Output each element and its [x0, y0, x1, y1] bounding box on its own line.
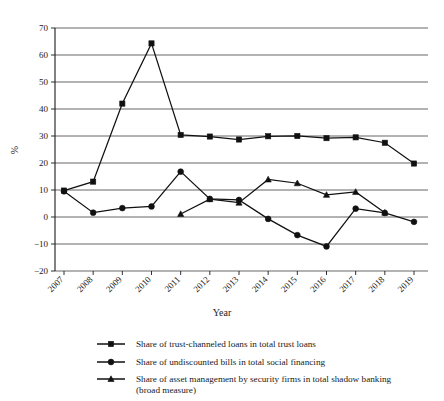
y-tick-label: −20	[34, 266, 49, 276]
data-point-circle	[61, 188, 67, 194]
legend-label-continued: (broad measure)	[136, 385, 196, 395]
legend-group: Share of trust-channeled loans in total …	[97, 339, 392, 395]
y-tick-label: 0	[44, 212, 49, 222]
x-axis-title: Year	[213, 307, 232, 318]
data-point-square	[353, 135, 358, 140]
chart-figure: −20−10010203040506070 200720082009201020…	[0, 0, 444, 401]
legend-item: Share of undiscounted bills in total soc…	[97, 357, 325, 367]
data-point-square	[266, 134, 271, 139]
data-point-square	[120, 101, 125, 106]
x-tick-label: 2008	[75, 274, 95, 294]
series-line	[64, 43, 414, 190]
legend-item: Share of trust-channeled loans in total …	[97, 339, 316, 349]
x-tick-label: 2019	[396, 274, 416, 294]
data-point-circle	[324, 244, 330, 250]
data-point-circle	[411, 219, 417, 225]
y-tick-label: 60	[39, 50, 49, 60]
data-point-circle	[294, 232, 300, 238]
data-point-square	[207, 134, 212, 139]
x-tick-label: 2017	[337, 274, 357, 294]
legend-item: Share of asset management by security fi…	[97, 374, 392, 395]
series-line	[64, 172, 414, 247]
x-tick-label: 2014	[250, 274, 270, 294]
series-square	[61, 41, 416, 193]
x-tick-label: 2009	[104, 274, 124, 294]
data-point-square	[324, 136, 329, 141]
data-point-square	[149, 41, 154, 46]
data-point-circle	[178, 169, 184, 175]
x-tick-label: 2015	[279, 274, 299, 294]
data-point-square	[295, 133, 300, 138]
x-tick-label: 2012	[191, 274, 211, 294]
data-point-triangle	[265, 176, 271, 182]
data-point-circle	[353, 206, 359, 212]
y-axis-title: %	[9, 146, 20, 154]
line-chart-svg: −20−10010203040506070 200720082009201020…	[0, 0, 444, 401]
gridlines-group	[55, 28, 428, 271]
y-tick-label: 70	[39, 23, 49, 33]
y-tick-label: −10	[34, 239, 49, 249]
data-point-square	[382, 140, 387, 145]
data-point-square	[91, 179, 96, 184]
data-point-circle	[119, 205, 125, 211]
y-tick-label: 20	[39, 158, 49, 168]
series-group	[61, 41, 417, 250]
data-point-square	[108, 341, 113, 346]
data-point-square	[236, 137, 241, 142]
y-axis-ticks: −20−10010203040506070	[34, 23, 55, 276]
y-tick-label: 50	[39, 77, 49, 87]
series-circle	[61, 169, 417, 250]
data-point-square	[411, 161, 416, 166]
x-tick-label: 2011	[163, 274, 183, 294]
x-tick-label: 2007	[46, 274, 66, 294]
y-tick-label: 10	[39, 185, 49, 195]
data-point-circle	[108, 359, 114, 365]
x-tick-label: 2010	[133, 274, 153, 294]
data-point-circle	[265, 216, 271, 222]
legend-label: Share of trust-channeled loans in total …	[136, 339, 316, 349]
y-tick-label: 40	[39, 104, 49, 114]
x-tick-label: 2013	[221, 274, 241, 294]
data-point-square	[178, 132, 183, 137]
data-point-circle	[90, 210, 96, 216]
data-point-circle	[149, 204, 155, 210]
legend-label: Share of asset management by security fi…	[136, 374, 392, 384]
x-axis-ticks: 2007200820092010201120122013201420152016…	[46, 271, 416, 294]
y-tick-label: 30	[39, 131, 49, 141]
x-tick-label: 2016	[308, 274, 328, 294]
data-point-triangle	[178, 211, 184, 217]
x-tick-label: 2018	[366, 274, 386, 294]
legend-label: Share of undiscounted bills in total soc…	[136, 357, 325, 367]
